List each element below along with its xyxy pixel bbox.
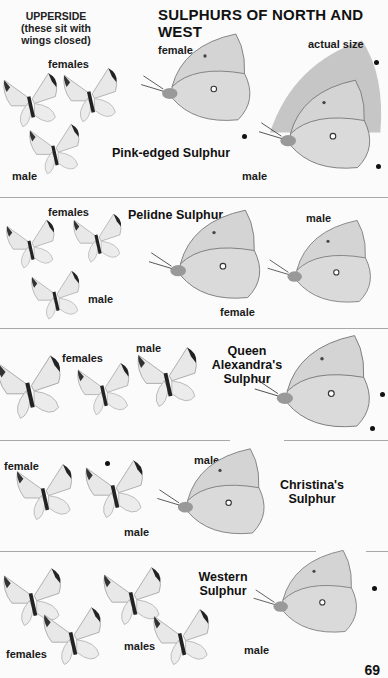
actual-size-label: actual size xyxy=(308,38,364,50)
butterfly-side-male xyxy=(262,540,366,644)
section-divider xyxy=(0,197,388,198)
upperside-heading: UPPERSIDE xyxy=(16,10,96,22)
upperside-note: UPPERSIDE (these sit with wings closed) xyxy=(16,10,96,46)
upperside-note-line: wings closed) xyxy=(16,34,96,46)
pointer-dot xyxy=(105,461,110,466)
butterfly-upperside-female xyxy=(62,66,120,124)
label-male: male xyxy=(244,644,269,656)
butterfly-upperside-female xyxy=(4,218,58,270)
pointer-dot xyxy=(372,586,377,591)
butterfly-upperside-male xyxy=(152,606,212,668)
butterfly-side-male xyxy=(264,330,380,434)
species-name-line: Christina's xyxy=(278,478,346,492)
label-male: male xyxy=(124,526,149,538)
pointer-dot xyxy=(380,392,385,397)
butterfly-upperside-female xyxy=(0,352,64,422)
label-female: female xyxy=(220,306,255,318)
species-name: Western Sulphur xyxy=(186,570,260,598)
butterfly-upperside-female xyxy=(14,462,76,522)
species-name-line: Sulphur xyxy=(186,584,260,598)
butterfly-side-female xyxy=(158,202,270,308)
butterfly-side-female xyxy=(150,28,260,128)
species-name-line: Western xyxy=(186,570,260,584)
section-divider xyxy=(366,551,388,552)
butterfly-upperside-male xyxy=(30,266,82,324)
butterfly-upperside-male xyxy=(136,344,200,410)
pointer-dot xyxy=(370,426,375,431)
label-male: male xyxy=(88,293,113,305)
label-male: male xyxy=(12,170,37,182)
pointer-dot xyxy=(376,164,381,169)
upperside-note-line: (these sit with xyxy=(16,22,96,34)
butterfly-upperside-female xyxy=(42,604,104,668)
butterfly-side-male xyxy=(166,442,274,542)
section-divider xyxy=(284,440,388,441)
label-females: females xyxy=(6,648,47,660)
butterfly-upperside-male xyxy=(84,458,146,520)
page-number: 69 xyxy=(364,662,380,678)
label-male: male xyxy=(242,170,267,182)
pointer-dot xyxy=(242,134,247,139)
label-males: males xyxy=(124,640,155,652)
butterfly-upperside-female xyxy=(76,360,132,418)
section-divider xyxy=(0,328,388,329)
butterfly-side-male xyxy=(276,212,380,312)
butterfly-upperside-female xyxy=(72,212,124,264)
pointer-dot xyxy=(374,60,379,65)
butterfly-side-male xyxy=(268,70,380,180)
section-divider xyxy=(0,440,230,441)
species-name: Christina's Sulphur xyxy=(278,478,346,506)
species-name-line: Sulphur xyxy=(278,492,346,506)
species-name: Pink-edged Sulphur xyxy=(112,146,230,160)
